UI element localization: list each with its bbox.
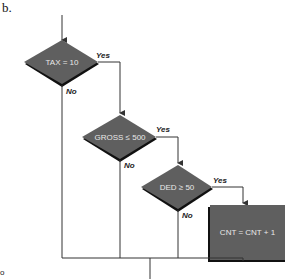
label-d2-no: No: [124, 161, 135, 170]
label-d1-yes: Yes: [96, 51, 110, 60]
decision-ded-text: DED ≥ 50: [141, 183, 213, 192]
label-d2-yes: Yes: [156, 125, 170, 134]
process-cnt-text: CNT = CNT + 1: [210, 228, 285, 237]
label-d3-yes: Yes: [213, 176, 227, 185]
label-d3-no: No: [182, 211, 193, 220]
edge-d1-yes: [98, 62, 120, 113]
label-d1-no: No: [66, 87, 77, 96]
side-mark: o: [0, 268, 4, 277]
decision-tax-text: TAX = 10: [24, 58, 100, 67]
decision-gross-text: GROSS ≤ 500: [82, 133, 158, 142]
edge-d3-yes: [212, 187, 243, 203]
edge-d2-yes: [156, 137, 178, 163]
